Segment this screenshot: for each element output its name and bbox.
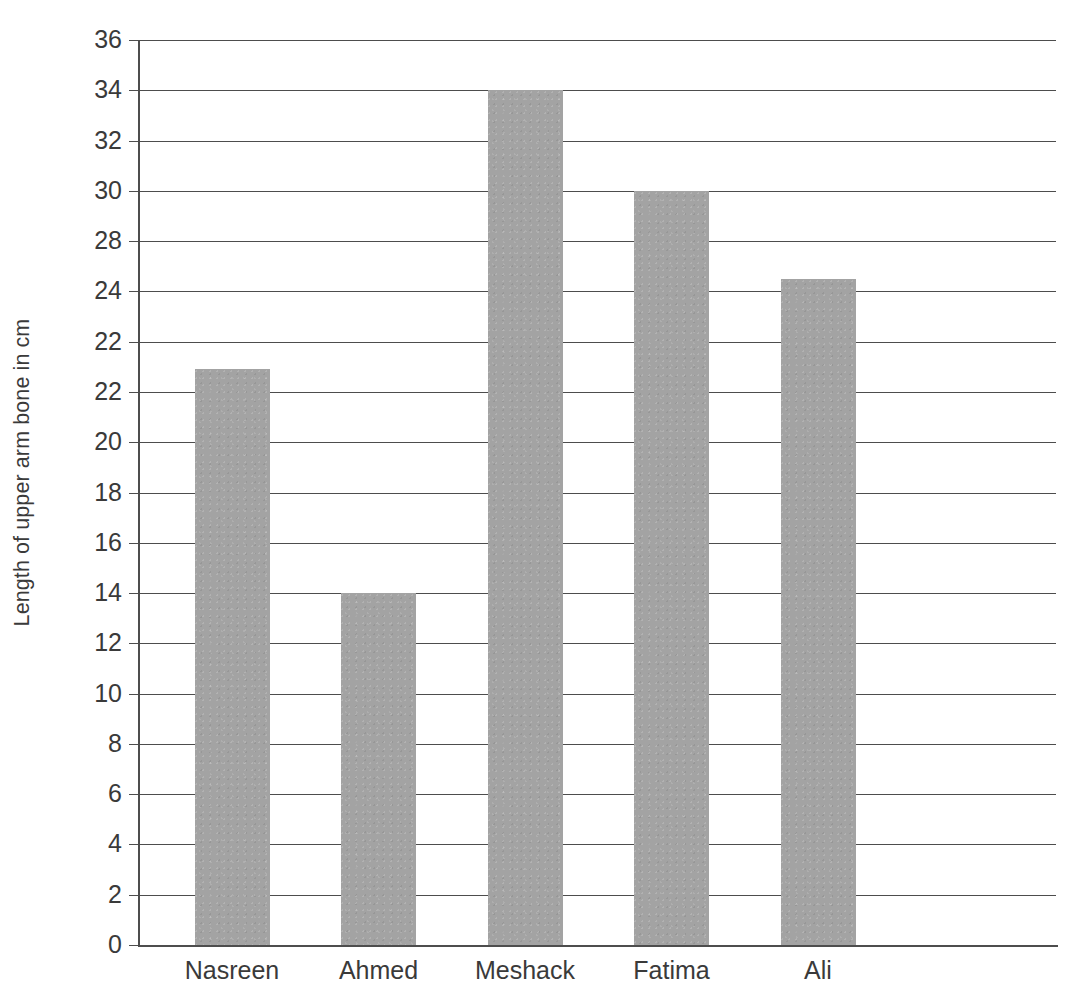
y-axis-line — [138, 40, 140, 946]
gridline — [138, 493, 1056, 494]
y-axis-tick-mark — [129, 241, 138, 242]
y-axis-tick-label: 18 — [52, 480, 122, 505]
bar[interactable] — [341, 593, 416, 945]
x-axis-category-label: Ali — [804, 958, 832, 983]
bar-chart: Length of upper arm bone in cm 363432302… — [0, 0, 1079, 1002]
gridline — [138, 543, 1056, 544]
gridline — [138, 241, 1056, 242]
gridline — [138, 744, 1056, 745]
y-axis-tick-mark — [129, 895, 138, 896]
x-axis-line — [138, 945, 1058, 947]
y-axis-tick-mark — [129, 794, 138, 795]
y-axis-tick-mark — [129, 493, 138, 494]
y-axis-title-text: Length of upper arm bone in cm — [11, 319, 36, 627]
gridline — [138, 794, 1056, 795]
y-axis-tick-mark — [129, 844, 138, 845]
y-axis-tick-label: 0 — [52, 932, 122, 957]
gridline — [138, 342, 1056, 343]
y-axis-tick-mark — [129, 543, 138, 544]
bar[interactable] — [195, 369, 270, 945]
x-axis-category-label: Meshack — [475, 958, 575, 983]
y-axis-tick-label: 24 — [52, 278, 122, 303]
y-axis-tick-label: 6 — [52, 781, 122, 806]
y-axis-tick-label: 22 — [52, 329, 122, 354]
y-axis-tick-label: 32 — [52, 128, 122, 153]
y-axis-tick-label: 2 — [52, 882, 122, 907]
y-axis-tick-mark — [129, 593, 138, 594]
y-axis-tick-mark — [129, 442, 138, 443]
x-axis-category-label: Nasreen — [185, 958, 280, 983]
gridline — [138, 40, 1056, 41]
gridline — [138, 291, 1056, 292]
x-axis-category-label: Fatima — [633, 958, 709, 983]
y-axis-tick-label: 10 — [52, 681, 122, 706]
gridline — [138, 191, 1056, 192]
y-axis-tick-mark — [129, 694, 138, 695]
y-axis-tick-label: 8 — [52, 731, 122, 756]
y-axis-tick-label: 4 — [52, 831, 122, 856]
y-axis-tick-mark — [129, 141, 138, 142]
y-axis-tick-mark — [129, 945, 138, 946]
y-axis-tick-label: 28 — [52, 228, 122, 253]
x-axis-category-label: Ahmed — [339, 958, 418, 983]
y-axis-title: Length of upper arm bone in cm — [0, 0, 46, 945]
y-axis-tick-label: 34 — [52, 77, 122, 102]
bar[interactable] — [488, 90, 563, 945]
plot-area — [138, 40, 1056, 945]
gridline — [138, 895, 1056, 896]
y-axis-tick-label: 30 — [52, 178, 122, 203]
y-axis-tick-mark — [129, 744, 138, 745]
gridline — [138, 643, 1056, 644]
y-axis-tick-label: 20 — [52, 429, 122, 454]
gridline — [138, 694, 1056, 695]
y-axis-tick-mark — [129, 643, 138, 644]
bar[interactable] — [634, 191, 709, 945]
y-axis-tick-mark — [129, 40, 138, 41]
y-axis-tick-mark — [129, 191, 138, 192]
y-axis-tick-label: 16 — [52, 530, 122, 555]
y-axis-tick-label: 22 — [52, 379, 122, 404]
gridline — [138, 392, 1056, 393]
y-axis-tick-label: 36 — [52, 27, 122, 52]
gridline — [138, 442, 1056, 443]
gridline — [138, 141, 1056, 142]
y-axis-tick-mark — [129, 392, 138, 393]
gridline — [138, 90, 1056, 91]
y-axis-tick-label: 12 — [52, 630, 122, 655]
gridline — [138, 593, 1056, 594]
gridline — [138, 844, 1056, 845]
y-axis-tick-mark — [129, 90, 138, 91]
y-axis-tick-label: 14 — [52, 580, 122, 605]
y-axis-tick-mark — [129, 291, 138, 292]
bar[interactable] — [781, 279, 856, 945]
y-axis-tick-mark — [129, 342, 138, 343]
